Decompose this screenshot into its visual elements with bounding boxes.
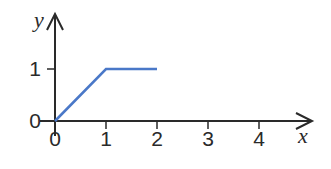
x-tick-label-1: 1 — [100, 127, 112, 150]
x-tick-label-3: 3 — [202, 127, 214, 150]
chart: 0 1 2 3 4 0 1 x y — [0, 0, 331, 169]
y-tick-label-1: 1 — [29, 57, 41, 80]
x-ticks — [106, 121, 259, 129]
x-axis-label: x — [297, 123, 308, 148]
x-tick-label-2: 2 — [151, 127, 163, 150]
y-tick-label-0: 0 — [29, 109, 41, 132]
x-tick-label-4: 4 — [253, 127, 265, 150]
series-line — [55, 69, 157, 121]
x-tick-label-0: 0 — [49, 127, 61, 150]
y-axis-label: y — [32, 7, 44, 32]
